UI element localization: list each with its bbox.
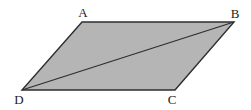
vertex-label-d: D (14, 92, 23, 107)
parallelogram-diagram: A B C D (0, 0, 251, 110)
vertex-label-a: A (78, 5, 88, 20)
vertex-label-b: B (231, 6, 240, 21)
vertex-label-c: C (168, 92, 177, 107)
